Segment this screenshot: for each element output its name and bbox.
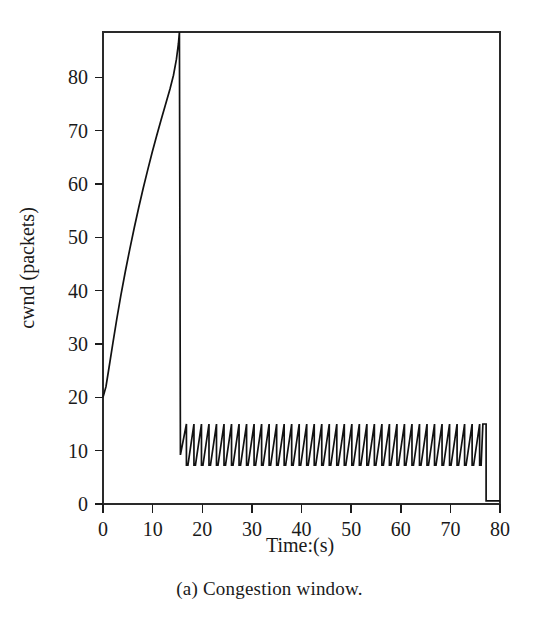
y-tick-label: 50 (68, 226, 88, 248)
y-tick-label: 60 (68, 173, 88, 195)
x-tick-label: 70 (440, 518, 460, 540)
x-tick-label: 60 (391, 518, 411, 540)
y-tick-label: 30 (68, 333, 88, 355)
x-tick-label: 80 (490, 518, 510, 540)
cwnd-series-line (103, 32, 500, 501)
x-tick-label: 0 (98, 518, 108, 540)
x-tick-label: 30 (242, 518, 262, 540)
y-tick-label: 10 (68, 440, 88, 462)
y-tick-label: 70 (68, 120, 88, 142)
data-series-group (103, 32, 500, 501)
y-tick-label: 40 (68, 280, 88, 302)
figure-container: 01020304050607080 01020304050607080 Time… (0, 0, 539, 626)
y-tick-label: 20 (68, 386, 88, 408)
y-axis-ticks-group: 01020304050607080 (68, 66, 103, 515)
figure-caption: (a) Congestion window. (0, 578, 539, 600)
y-tick-label: 0 (78, 493, 88, 515)
y-axis-title: cwnd (packets) (16, 207, 39, 329)
y-tick-label: 80 (68, 66, 88, 88)
chart-plot-area: 01020304050607080 01020304050607080 Time… (0, 0, 539, 575)
x-tick-label: 50 (341, 518, 361, 540)
x-tick-label: 10 (143, 518, 163, 540)
x-axis-title: Time:(s) (266, 534, 334, 557)
congestion-window-chart: 01020304050607080 01020304050607080 Time… (0, 0, 539, 575)
x-tick-label: 20 (192, 518, 212, 540)
